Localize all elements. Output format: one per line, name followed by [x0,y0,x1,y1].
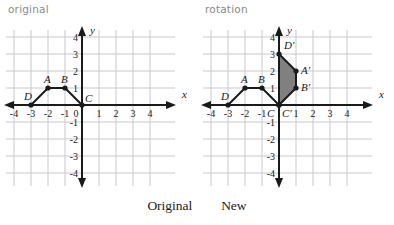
shape-rotated-filled [279,54,296,105]
vertex-label-C-prime: C' [282,107,292,119]
coordinate-plane-rotation: x y -4 -3 -2 -1 1 2 3 4 4 3 2 1 -1 -2 -3… [197,16,394,200]
svg-text:3: 3 [270,49,275,60]
x-axis-arrow-right [166,101,176,109]
panel-original: original [0,0,197,200]
y-axis-arrow-up [78,26,86,36]
y-axis-label: y [286,24,292,36]
svg-text:4: 4 [345,108,350,119]
svg-text:-3: -3 [70,151,78,162]
svg-text:4: 4 [270,32,275,43]
vertex-label-D-prime: D' [283,39,295,51]
svg-text:-2: -2 [267,134,275,145]
svg-text:4: 4 [73,32,78,43]
x-axis-arrow-right [363,101,373,109]
svg-text:1: 1 [294,108,299,119]
svg-text:2: 2 [270,66,275,77]
svg-text:3: 3 [131,108,136,119]
vertex-label-B-prime: B' [301,81,311,93]
svg-text:-1: -1 [61,108,69,119]
figure-caption: Original New [0,198,394,214]
coordinate-plane-original: x y -4 -3 -2 -1 0 1 2 3 4 4 3 2 1 -1 -2 [0,16,197,200]
caption-original: Original [147,198,192,214]
svg-text:-4: -4 [267,168,275,179]
svg-text:1: 1 [270,83,275,94]
svg-text:-3: -3 [267,151,275,162]
vertex-label-C: C [85,92,93,104]
y-axis-arrow-up [275,26,283,36]
caption-new: New [221,198,247,214]
svg-text:3: 3 [73,49,78,60]
svg-text:-4: -4 [10,108,18,119]
svg-text:-2: -2 [44,108,52,119]
x-axis-label: x [378,88,384,100]
svg-text:4: 4 [148,108,153,119]
y-axis-arrow-down [275,178,283,188]
svg-text:-1: -1 [258,108,266,119]
svg-text:1: 1 [97,108,102,119]
svg-text:2: 2 [73,66,78,77]
vertex-label-A-prime: A' [300,64,311,76]
y-axis-arrow-down [78,178,86,188]
svg-text:-1: -1 [70,117,78,128]
panel-title-original: original [8,3,49,15]
x-axis-label: x [181,88,187,100]
plot-svg-original: x y -4 -3 -2 -1 0 1 2 3 4 4 3 2 1 -1 -2 [0,16,197,200]
svg-text:-4: -4 [207,108,215,119]
y-axis-label: y [89,24,95,36]
svg-text:-4: -4 [70,168,78,179]
vertex-label-C: C [267,107,275,119]
svg-text:-2: -2 [70,134,78,145]
vertex-label-D: D [23,90,32,102]
vertex-label-A: A [240,73,248,85]
svg-text:-2: -2 [241,108,249,119]
panel-title-rotation: rotation [205,3,248,15]
plot-svg-rotation: x y -4 -3 -2 -1 1 2 3 4 4 3 2 1 -1 -2 -3… [197,16,394,200]
svg-text:2: 2 [311,108,316,119]
vertex-label-D: D [220,90,229,102]
svg-text:3: 3 [328,108,333,119]
vertex-label-A: A [43,73,51,85]
vertex-label-B: B [258,73,265,85]
svg-text:-3: -3 [27,108,35,119]
svg-text:-3: -3 [224,108,232,119]
vertex-label-B: B [61,73,68,85]
svg-text:1: 1 [73,83,78,94]
panel-rotation: rotation [197,0,394,200]
svg-text:2: 2 [114,108,119,119]
